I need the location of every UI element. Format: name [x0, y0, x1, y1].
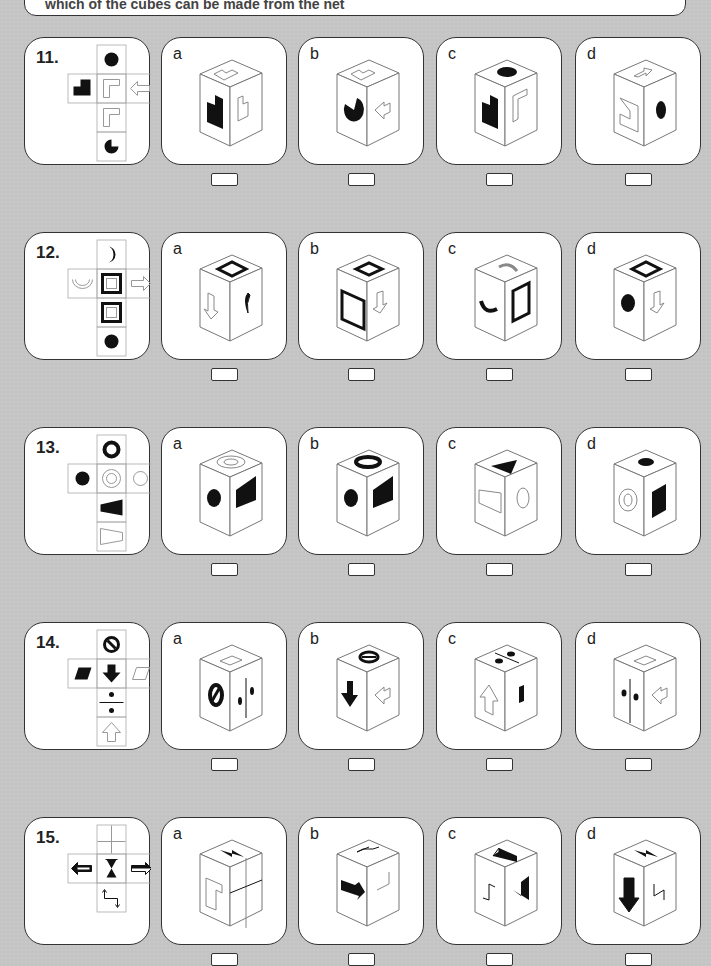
answer-checkbox-15-b[interactable] — [348, 953, 375, 966]
option-label: d — [587, 630, 596, 648]
option-label: d — [587, 825, 596, 843]
option-label: b — [310, 240, 319, 258]
answer-checkbox-11-c[interactable] — [486, 173, 513, 186]
cube-option-d: d — [575, 37, 701, 165]
cube-option-b: b — [298, 37, 424, 165]
cube-option-a: a — [161, 427, 287, 555]
answer-checkbox-12-d[interactable] — [625, 368, 652, 381]
answer-checkbox-13-c[interactable] — [486, 563, 513, 576]
answer-checkbox-13-d[interactable] — [625, 563, 652, 576]
answer-checkbox-15-c[interactable] — [486, 953, 513, 966]
net-card-12: 12. — [24, 232, 150, 360]
answer-checkbox-11-a[interactable] — [211, 173, 238, 186]
cube-option-b: b — [298, 622, 424, 750]
cube-option-a: a — [161, 37, 287, 165]
option-label: c — [448, 240, 456, 258]
cube-option-d: d — [575, 427, 701, 555]
cube-option-c: c — [436, 232, 562, 360]
question-number: 15. — [36, 828, 60, 848]
option-label: a — [173, 435, 182, 453]
cube-option-c: c — [436, 622, 562, 750]
option-label: b — [310, 435, 319, 453]
net-card-13: 13. — [24, 427, 150, 555]
cube-option-c: c — [436, 427, 562, 555]
option-label: b — [310, 825, 319, 843]
answer-checkbox-13-b[interactable] — [348, 563, 375, 576]
instruction-header: which of the cubes can be made from the … — [24, 0, 686, 16]
option-label: a — [173, 240, 182, 258]
cube-option-b: b — [298, 427, 424, 555]
answer-checkbox-14-d[interactable] — [625, 758, 652, 771]
net-card-15: 15. — [24, 817, 150, 945]
option-label: d — [587, 45, 596, 63]
question-number: 13. — [36, 438, 60, 458]
answer-checkbox-11-d[interactable] — [625, 173, 652, 186]
option-label: c — [448, 435, 456, 453]
answer-checkbox-15-d[interactable] — [625, 953, 652, 966]
option-label: a — [173, 825, 182, 843]
answer-checkbox-11-b[interactable] — [348, 173, 375, 186]
answer-checkbox-12-a[interactable] — [211, 368, 238, 381]
answer-checkbox-14-b[interactable] — [348, 758, 375, 771]
option-label: b — [310, 630, 319, 648]
answer-checkbox-14-c[interactable] — [486, 758, 513, 771]
cube-option-d: d — [575, 622, 701, 750]
net-card-14: 14. — [24, 622, 150, 750]
cube-option-c: c — [436, 37, 562, 165]
answer-checkbox-12-b[interactable] — [348, 368, 375, 381]
instruction-text: which of the cubes can be made from the … — [45, 0, 345, 12]
answer-checkbox-13-a[interactable] — [211, 563, 238, 576]
option-label: b — [310, 45, 319, 63]
cube-option-b: b — [298, 232, 424, 360]
question-number: 12. — [36, 243, 60, 263]
answer-checkbox-12-c[interactable] — [486, 368, 513, 381]
question-number: 11. — [36, 48, 59, 68]
option-label: d — [587, 435, 596, 453]
cube-option-a: a — [161, 232, 287, 360]
net-card-11: 11. — [24, 37, 150, 165]
option-label: c — [448, 45, 456, 63]
option-label: c — [448, 630, 456, 648]
option-label: d — [587, 240, 596, 258]
cube-option-d: d — [575, 817, 701, 945]
question-number: 14. — [36, 633, 60, 653]
answer-checkbox-15-a[interactable] — [211, 953, 238, 966]
cube-option-c: c — [436, 817, 562, 945]
cube-option-a: a — [161, 817, 287, 945]
cube-option-b: b — [298, 817, 424, 945]
cube-option-a: a — [161, 622, 287, 750]
option-label: a — [173, 45, 182, 63]
option-label: a — [173, 630, 182, 648]
answer-checkbox-14-a[interactable] — [211, 758, 238, 771]
cube-option-d: d — [575, 232, 701, 360]
option-label: c — [448, 825, 456, 843]
